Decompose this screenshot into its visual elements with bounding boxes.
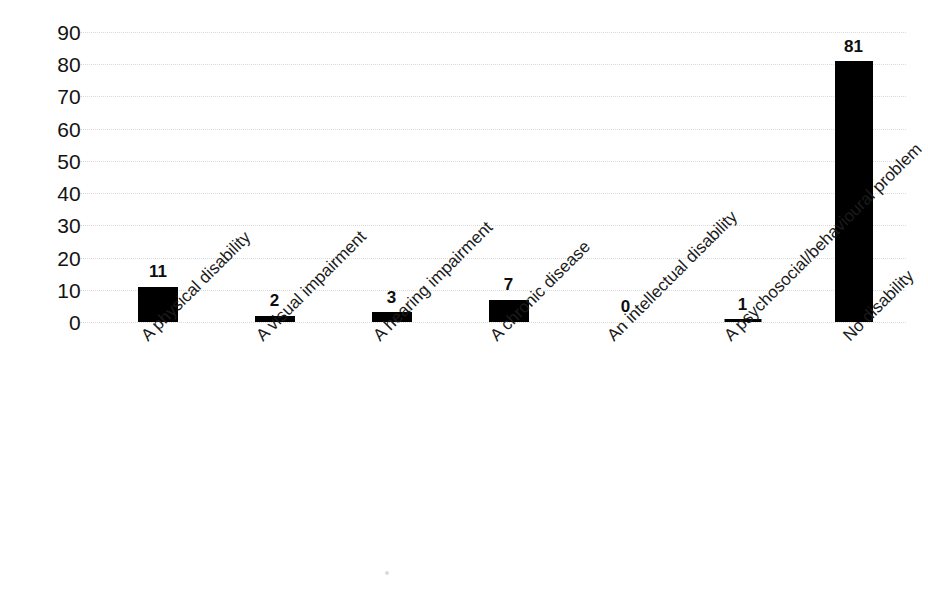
y-tick-label: 20	[57, 247, 81, 268]
y-tick-label: 90	[57, 22, 81, 43]
bar-value-label: 11	[149, 263, 167, 280]
y-tick-label: 10	[57, 279, 81, 300]
bar-value-label: 3	[387, 289, 396, 306]
bar-value-label: 81	[844, 38, 863, 55]
bar-chart: 90 80 70 60 50 40 30 20 10 0 11 2	[0, 0, 928, 597]
scan-artifact	[385, 571, 389, 575]
y-tick-label: 60	[57, 118, 81, 139]
y-tick-label: 40	[57, 183, 81, 204]
y-tick-label: 70	[57, 86, 81, 107]
y-tick-label: 30	[57, 215, 81, 236]
x-axis: A physical disability A visual impairmen…	[80, 332, 906, 572]
y-tick-label: 50	[57, 150, 81, 171]
bar-value-label: 7	[504, 276, 513, 293]
y-tick-label: 80	[57, 54, 81, 75]
